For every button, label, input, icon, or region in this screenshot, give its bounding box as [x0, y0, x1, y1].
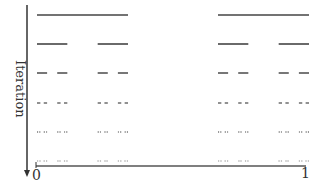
- subdivision-rows: [37, 15, 309, 161]
- x-tick-0: 0: [32, 168, 41, 182]
- diagram-canvas: [0, 0, 325, 191]
- y-axis-arrowhead: [24, 170, 30, 177]
- y-axis-label: Iteration: [13, 60, 27, 120]
- x-tick-1: 1: [301, 166, 310, 180]
